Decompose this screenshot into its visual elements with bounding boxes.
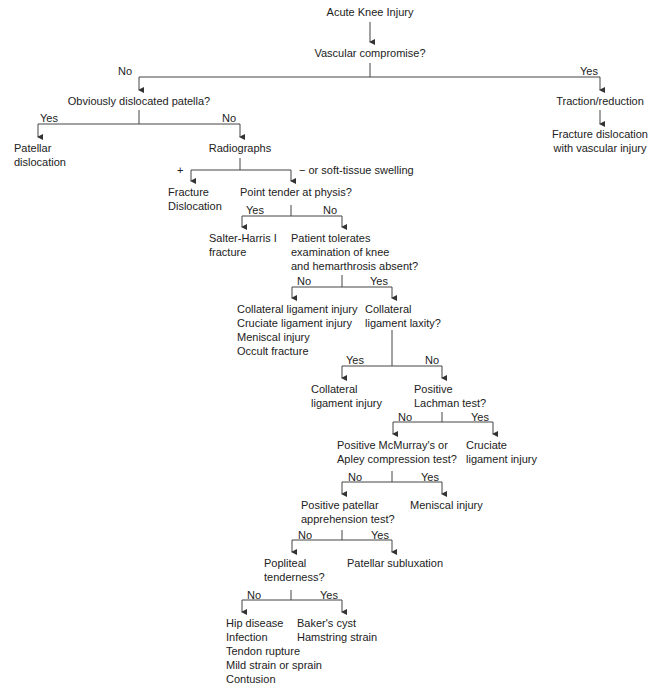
branch-label-no: No (222, 111, 236, 125)
branch-label-no: No (398, 410, 412, 424)
branch-label-yes: Yes (580, 64, 598, 78)
branch-label-no: No (298, 528, 312, 542)
node-point-tender-physis: Point tender at physis? (240, 185, 352, 199)
branch-label-plus: + (177, 163, 183, 177)
node-cruciate-ligament-injury: Cruciate ligament injury (466, 438, 537, 466)
node-patient-tolerates: Patient tolerates examination of knee an… (291, 231, 418, 273)
node-popliteal-yes-diagnoses: Baker's cyst Hamstring strain (297, 616, 377, 644)
node-vascular-compromise: Vascular compromise? (314, 46, 425, 60)
branch-label-yes: Yes (471, 410, 489, 424)
node-fracture-dislocation-vascular: Fracture dislocation with vascular injur… (552, 127, 648, 155)
node-salter-harris: Salter-Harris I fracture (209, 231, 277, 259)
branch-label-yes: Yes (346, 353, 364, 367)
node-collateral-laxity: Collateral ligament laxity? (365, 302, 441, 330)
branch-label-yes: Yes (421, 470, 439, 484)
branch-label-no: No (118, 64, 132, 78)
branch-label-yes: Yes (40, 111, 58, 125)
branch-label-no: No (247, 588, 261, 602)
node-lachman-test: Positive Lachman test? (414, 382, 486, 410)
node-popliteal-tenderness: Popliteal tenderness? (264, 556, 325, 584)
branch-label-no: No (323, 203, 337, 217)
node-mcmurray-apley: Positive McMurray's or Apley compression… (337, 438, 457, 466)
branch-label-no: No (297, 274, 311, 288)
node-meniscal-injury: Meniscal injury (410, 498, 483, 512)
branch-label-minus: − or soft-tissue swelling (299, 163, 414, 177)
node-fracture-dislocation: Fracture Dislocation (168, 185, 222, 213)
branch-label-yes: Yes (370, 274, 388, 288)
node-patellar-subluxation: Patellar subluxation (347, 556, 443, 570)
node-obviously-dislocated-patella: Obviously dislocated patella? (68, 94, 210, 108)
branch-label-yes: Yes (371, 528, 389, 542)
node-patellar-dislocation: Patellar dislocation (14, 141, 66, 169)
node-patellar-apprehension: Positive patellar apprehension test? (301, 498, 395, 526)
node-traction-reduction: Traction/reduction (556, 94, 644, 108)
branch-label-no: No (348, 470, 362, 484)
branch-label-yes: Yes (246, 203, 264, 217)
node-radiographs: Radiographs (209, 141, 271, 155)
node-collateral-ligament-injury: Collateral ligament injury (311, 382, 382, 410)
branch-label-yes: Yes (320, 588, 338, 602)
branch-label-no: No (425, 353, 439, 367)
node-multiple-injuries: Collateral ligament injury Cruciate liga… (237, 302, 357, 358)
node-acute-knee-injury: Acute Knee Injury (327, 5, 414, 19)
